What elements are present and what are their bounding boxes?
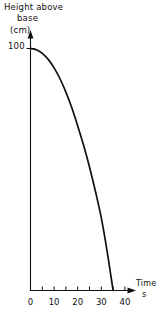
x-tick-label-20: 20 <box>70 297 86 307</box>
x-axis-label-line2: s <box>142 290 146 299</box>
chart-figure: Height above base (cm) 100 Time s 010203… <box>0 0 165 315</box>
x-tick-label-0: 0 <box>23 297 39 307</box>
x-tick-label-30: 30 <box>93 297 109 307</box>
x-tick-label-40: 40 <box>117 297 133 307</box>
y-axis-label-line3: (cm) <box>10 26 30 36</box>
y-axis-label-line2: base <box>17 14 38 24</box>
data-curve-height-vs-time <box>31 49 114 291</box>
x-axis-label-line1: Time <box>136 279 156 288</box>
y-tick-label-100: 100 <box>8 42 25 52</box>
y-axis-label-line1: Height above <box>4 3 63 13</box>
x-axis-arrow-icon <box>128 288 137 294</box>
x-tick-label-10: 10 <box>46 297 62 307</box>
